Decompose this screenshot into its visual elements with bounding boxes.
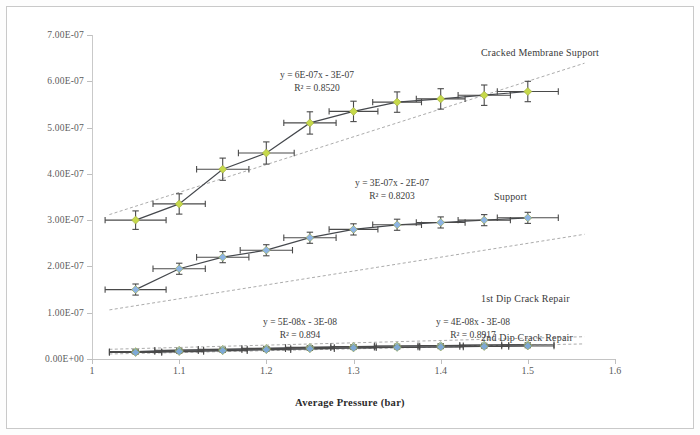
y-tick-label: 6.00E-07 — [47, 76, 84, 86]
x-tick-label: 1 — [90, 365, 95, 376]
x-tick-label: 1.3 — [347, 365, 360, 376]
data-point-marker — [350, 225, 358, 233]
x-tick-label: 1.2 — [260, 365, 273, 376]
eq-support-r2: R² = 0.8203 — [355, 190, 429, 203]
eq-cracked-r2: R² = 0.8520 — [280, 82, 354, 95]
data-point-marker — [132, 216, 140, 224]
x-tick-mark — [92, 359, 93, 364]
series-connector — [136, 218, 528, 290]
x-tick-mark — [441, 359, 442, 364]
figure-frame: Permeance (mol/m2.s-1.Pa-1) Average Pres… — [6, 6, 694, 429]
data-point-marker — [175, 265, 183, 273]
eq-dip1-equation: y = 5E-08x - 3E-08 — [263, 316, 337, 329]
x-tick-mark — [354, 359, 355, 364]
data-point-marker — [132, 286, 140, 294]
x-tick-label: 1.5 — [522, 365, 535, 376]
eq-dip2-equation: y = 4E-08x - 3E-08 — [436, 316, 510, 329]
x-axis-title: Average Pressure (bar) — [7, 397, 693, 408]
data-point-marker — [306, 234, 314, 242]
x-tick-mark — [266, 359, 267, 364]
eq-support: y = 3E-07x - 2E-07R² = 0.8203 — [355, 177, 429, 203]
data-point-marker — [350, 107, 358, 115]
data-point-marker — [393, 221, 401, 229]
x-tick-label: 1.6 — [609, 365, 622, 376]
data-point-marker — [262, 246, 270, 254]
data-point-marker — [306, 119, 314, 127]
x-tick-mark — [179, 359, 180, 364]
x-tick-label: 1.4 — [434, 365, 447, 376]
label-dip2: 2nd Dip Crack Repair — [481, 332, 573, 343]
y-tick-label: 1.00E-07 — [47, 308, 84, 318]
series-connector — [136, 92, 528, 221]
label-dip1: 1st Dip Crack Repair — [481, 293, 570, 304]
y-tick-label: 2.00E-07 — [47, 261, 84, 271]
data-point-marker — [480, 91, 488, 99]
label-cracked: Cracked Membrane Support — [481, 47, 599, 58]
x-tick-label: 1.1 — [173, 365, 186, 376]
data-point-marker — [437, 219, 445, 227]
eq-support-equation: y = 3E-07x - 2E-07 — [355, 177, 429, 190]
eq-dip1: y = 5E-08x - 3E-08R² = 0.894 — [263, 316, 337, 342]
x-tick-mark — [615, 359, 616, 364]
y-tick-label: 3.00E-07 — [47, 215, 84, 225]
y-tick-label: 7.00E-07 — [47, 30, 84, 40]
data-point-marker — [437, 95, 445, 103]
data-point-marker — [219, 253, 227, 261]
data-point-marker — [393, 98, 401, 106]
data-point-marker — [524, 214, 532, 222]
data-point-marker — [262, 149, 270, 157]
eq-cracked-equation: y = 6E-07x - 3E-07 — [280, 69, 354, 82]
y-tick-label: 0.00E+00 — [45, 354, 84, 364]
eq-dip1-r2: R² = 0.894 — [263, 329, 337, 342]
data-point-marker — [524, 88, 532, 96]
label-support: Support — [494, 191, 527, 202]
x-tick-mark — [528, 359, 529, 364]
y-tick-label: 4.00E-07 — [47, 169, 84, 179]
eq-cracked: y = 6E-07x - 3E-07R² = 0.8520 — [280, 69, 354, 95]
figure-container: Permeance (mol/m2.s-1.Pa-1) Average Pres… — [0, 0, 700, 435]
data-point-marker — [480, 216, 488, 224]
y-tick-label: 5.00E-07 — [47, 123, 84, 133]
